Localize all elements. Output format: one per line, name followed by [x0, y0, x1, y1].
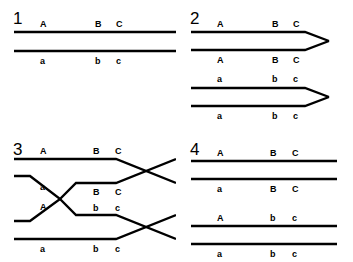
panel-4-allele-C-2: C — [292, 185, 299, 194]
panel-2-allele-a-4: a — [217, 112, 222, 121]
panel-4-allele-A-1: A — [217, 149, 224, 158]
panel-4-allele-B-2: B — [270, 185, 277, 194]
panel-1-chromosome-lines — [0, 0, 176, 131]
panel-2-allele-B-1: B — [272, 20, 279, 29]
panel-3-allele-b-4: b — [93, 245, 99, 254]
panel-2-allele-C-2: C — [293, 56, 300, 65]
panel-4: 4 A B C a B C A b c a b c — [177, 131, 353, 262]
panel-1-allele-b: b — [95, 57, 101, 66]
panel-4-allele-b-3: b — [270, 214, 276, 223]
panel-3-allele-a-2: a — [40, 183, 45, 192]
diagram-canvas: 1 A B C a b c 2 A B C A B C a b c a — [0, 0, 353, 262]
panel-1-allele-C: C — [116, 20, 123, 29]
panel-2-allele-c-4: c — [293, 112, 298, 121]
chromatid-line-1 — [14, 159, 176, 183]
panel-2-allele-A-2: A — [217, 56, 224, 65]
panel-3-allele-a-4: a — [40, 245, 45, 254]
panel-4-allele-a-4: a — [217, 250, 222, 259]
panel-1-allele-c: c — [116, 57, 121, 66]
panel-1-allele-B: B — [95, 20, 102, 29]
panel-1-allele-a: a — [40, 57, 45, 66]
panel-2-allele-B-2: B — [272, 56, 279, 65]
panel-2-allele-b-4: b — [272, 112, 278, 121]
panel-3-allele-A-3: A — [40, 203, 47, 212]
panel-4-allele-a-2: a — [217, 185, 222, 194]
chromatid-line-4 — [191, 97, 329, 106]
panel-2-allele-c-3: c — [293, 75, 298, 84]
chromatid-line-4 — [14, 215, 176, 239]
panel-2-allele-b-3: b — [272, 75, 278, 84]
panel-3-allele-C-2: C — [115, 188, 122, 197]
panel-3-allele-c-3: c — [115, 204, 120, 213]
panel-1: 1 A B C a b c — [0, 0, 176, 131]
panel-3-allele-C-1: C — [115, 147, 122, 156]
panel-3: 3 A B C a B C A b c a b c — [0, 131, 176, 262]
panel-4-allele-A-3: A — [217, 214, 224, 223]
panel-2-allele-A-1: A — [217, 20, 224, 29]
panel-3-allele-A-1: A — [40, 147, 47, 156]
panel-1-allele-A: A — [40, 20, 47, 29]
panel-4-chromosome-lines — [177, 131, 353, 262]
panel-3-allele-B-2: B — [93, 188, 100, 197]
panel-4-allele-c-3: c — [292, 214, 297, 223]
panel-3-allele-c-4: c — [115, 245, 120, 254]
chromatid-line-3 — [191, 88, 329, 97]
panel-4-allele-B-1: B — [270, 149, 277, 158]
panel-4-allele-C-1: C — [292, 149, 299, 158]
chromatid-line-2 — [191, 41, 329, 50]
panel-2-allele-a-3: a — [217, 75, 222, 84]
chromatid-line-1 — [191, 32, 329, 41]
panel-3-allele-b-3: b — [93, 204, 99, 213]
panel-4-allele-b-4: b — [270, 250, 276, 259]
panel-2-chromosome-arrows — [177, 0, 353, 131]
panel-3-allele-B-1: B — [93, 147, 100, 156]
panel-3-crossover-lines — [0, 131, 176, 262]
panel-2: 2 A B C A B C a b c a b c — [177, 0, 353, 131]
panel-2-allele-C-1: C — [293, 20, 300, 29]
panel-4-allele-c-4: c — [292, 250, 297, 259]
